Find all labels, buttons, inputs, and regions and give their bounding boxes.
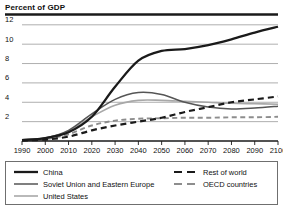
legend-entry-united-states[interactable]: United States — [14, 190, 174, 202]
legend-entry-soviet-union-eastern-europe[interactable]: Soviet Union and Eastern Europe — [14, 178, 174, 190]
legend-entry-rest-of-world[interactable]: Rest of world — [174, 166, 278, 178]
x-tick-label-1990: 1990 — [14, 146, 31, 155]
legend-entry-oecd-countries[interactable]: OECD countries — [174, 178, 278, 190]
legend-label-china: China — [43, 168, 63, 177]
x-tick-label-2010: 2010 — [60, 146, 77, 155]
legend-column-left: ChinaSoviet Union and Eastern EuropeUnit… — [14, 166, 174, 202]
series-line-oecd-countries — [22, 117, 278, 141]
chart-figure: Percent of GDP 24681012 1990200020102020… — [0, 0, 283, 209]
y-tick-label-4: 4 — [5, 94, 9, 102]
y-tick-label-8: 8 — [5, 55, 9, 63]
legend-column-right: Rest of worldOECD countries — [174, 166, 278, 190]
legend-label-rest-of-world: Rest of world — [203, 168, 247, 177]
x-tick-label-2060: 2060 — [177, 146, 194, 155]
x-axis-tick-labels: 1990200020102020203020402050206020702080… — [0, 146, 283, 157]
plot-area — [0, 0, 283, 156]
y-tick-label-2: 2 — [5, 113, 9, 121]
legend-label-oecd-countries: OECD countries — [203, 180, 257, 189]
x-tick-label-2070: 2070 — [200, 146, 217, 155]
x-tick-label-2040: 2040 — [130, 146, 147, 155]
x-tick-label-2090: 2090 — [246, 146, 263, 155]
y-tick-label-12: 12 — [5, 16, 13, 24]
legend-swatch-china — [14, 167, 38, 177]
legend-swatch-oecd-countries — [174, 179, 198, 189]
chart-legend: ChinaSoviet Union and Eastern EuropeUnit… — [5, 161, 278, 205]
gridlines — [22, 25, 278, 122]
legend-swatch-soviet-union-eastern-europe — [14, 179, 38, 189]
y-tick-label-6: 6 — [5, 74, 9, 82]
legend-label-soviet-union-eastern-europe: Soviet Union and Eastern Europe — [43, 180, 154, 189]
legend-swatch-united-states — [14, 191, 38, 201]
series-line-china — [22, 27, 278, 140]
x-tick-label-2100: 2100 — [270, 146, 283, 155]
x-tick-label-2030: 2030 — [107, 146, 124, 155]
x-tick-label-2000: 2000 — [37, 146, 54, 155]
legend-entry-china[interactable]: China — [14, 166, 174, 178]
y-tick-label-10: 10 — [5, 36, 13, 44]
legend-swatch-rest-of-world — [174, 167, 198, 177]
legend-label-united-states: United States — [43, 192, 88, 201]
x-tick-label-2020: 2020 — [83, 146, 100, 155]
x-tick-label-2050: 2050 — [153, 146, 170, 155]
x-tick-label-2080: 2080 — [223, 146, 240, 155]
